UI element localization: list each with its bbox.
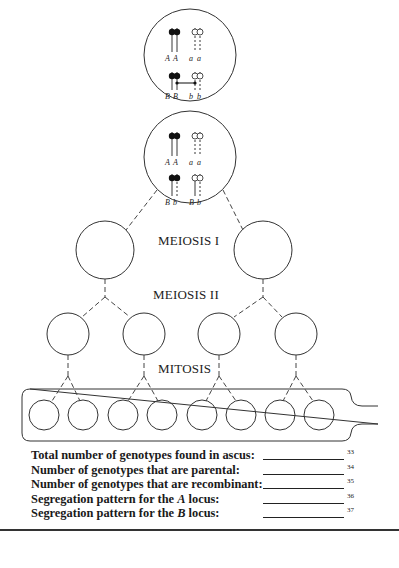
svg-text:a: a [189,54,193,63]
svg-text:B: B [165,92,170,101]
answer-blank[interactable] [263,488,344,489]
question-number: 37 [347,506,354,514]
question-row: Number of genotypes that are parental: 3… [31,463,371,478]
stage-label-meiosis-1: MEIOSIS I [158,233,219,249]
meiosis2-cell-2 [123,313,165,355]
svg-text:b: b [197,198,201,207]
svg-text:a: a [189,158,193,167]
ascus-outline [22,389,378,441]
question-label: Number of genotypes that are recombinant… [31,477,263,492]
svg-text:A: A [172,158,178,167]
svg-text:A: A [172,54,178,63]
question-row: Number of genotypes that are recombinant… [31,477,371,492]
svg-text:b: b [173,198,177,207]
answer-blank[interactable] [263,459,344,460]
post-crossover-cell [144,111,236,203]
svg-text:b: b [197,92,201,101]
meiosis2-cell-3 [198,313,240,355]
question-number: 34 [347,463,354,471]
svg-text:b: b [189,92,193,101]
meiosis2-cell-4 [275,313,317,355]
svg-text:B: B [189,198,194,207]
question-label: Number of genotypes that are parental: [31,463,240,478]
stage-label-meiosis-2: MEIOSIS II [153,287,219,303]
svg-text:A: A [164,158,170,167]
svg-text:B: B [165,198,170,207]
meiosis1-cell-left [76,221,134,279]
section-divider [0,529,399,531]
answer-blank[interactable] [263,503,344,504]
question-label: Segregation pattern for the A locus: [31,492,219,507]
question-number: 35 [347,477,354,485]
question-label: Total number of genotypes found in ascus… [31,448,255,463]
answer-blank[interactable] [263,517,344,518]
meiosis2-cell-1 [47,313,89,355]
stage-label-mitosis: MITOSIS [158,361,211,377]
question-number: 36 [347,492,354,500]
answer-blank[interactable] [263,474,344,475]
svg-text:A: A [164,54,170,63]
svg-text:a: a [197,158,201,167]
question-list: Total number of genotypes found in ascus… [31,448,371,521]
svg-text:B: B [173,92,178,101]
svg-text:a: a [197,54,201,63]
question-label: Segregation pattern for the B locus: [31,506,219,521]
question-number: 33 [347,448,354,456]
question-row: Segregation pattern for the B locus: 37 [31,506,371,521]
question-row: Total number of genotypes found in ascus… [31,448,371,463]
question-row: Segregation pattern for the A locus: 36 [31,492,371,507]
